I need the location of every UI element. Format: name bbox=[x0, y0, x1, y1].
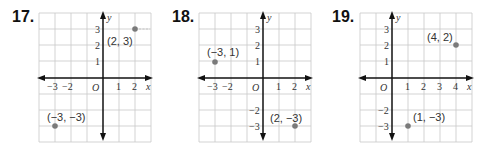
x-axis-label: x bbox=[466, 81, 472, 92]
x-axis-label: x bbox=[305, 81, 311, 92]
y-axis-label: y bbox=[395, 12, 401, 23]
svg-text:3: 3 bbox=[95, 24, 100, 35]
y-axis-label: y bbox=[106, 12, 112, 23]
point-label: (1, −3) bbox=[413, 111, 445, 123]
svg-text:−3: −3 bbox=[378, 121, 389, 132]
svg-text:2: 2 bbox=[95, 40, 100, 51]
origin-label: O bbox=[252, 82, 259, 93]
svg-text:1: 1 bbox=[116, 81, 121, 92]
svg-text:2: 2 bbox=[255, 40, 260, 51]
point-marker bbox=[132, 26, 138, 32]
svg-text:−3: −3 bbox=[249, 121, 260, 132]
origin-label: O bbox=[92, 82, 99, 93]
svg-text:−3: −3 bbox=[207, 81, 218, 92]
svg-text:2: 2 bbox=[421, 81, 426, 92]
x-axis-label: x bbox=[145, 81, 151, 92]
point-label: (2, 3) bbox=[107, 35, 133, 47]
svg-text:1: 1 bbox=[405, 81, 410, 92]
coordinate-plane: y x O −3−2 12 321 −2−3 (−3, 1) (2, −3) bbox=[160, 0, 320, 152]
svg-text:1: 1 bbox=[95, 56, 100, 67]
svg-text:−2: −2 bbox=[62, 81, 73, 92]
problem-18: 18. y x O −3−2 12 321 −2−3 (−3, 1) (2, −… bbox=[160, 0, 320, 152]
svg-text:4: 4 bbox=[453, 81, 458, 92]
y-axis-label: y bbox=[266, 12, 272, 23]
point-marker bbox=[292, 123, 298, 129]
svg-text:1: 1 bbox=[276, 81, 281, 92]
origin-label: O bbox=[380, 82, 387, 93]
svg-text:−3: −3 bbox=[47, 81, 58, 92]
point-marker bbox=[212, 59, 218, 65]
point-label: (−3, 1) bbox=[207, 46, 239, 58]
svg-text:−2: −2 bbox=[249, 105, 260, 116]
problem-19: 19. y x O 1234 321 −2−3 (4, 2) (1, −3) bbox=[320, 0, 483, 152]
svg-text:2: 2 bbox=[292, 81, 297, 92]
point-label: (2, −3) bbox=[270, 112, 302, 124]
svg-text:−2: −2 bbox=[378, 105, 389, 116]
svg-text:2: 2 bbox=[384, 40, 389, 51]
svg-text:3: 3 bbox=[437, 81, 442, 92]
svg-text:2: 2 bbox=[132, 81, 137, 92]
svg-text:−2: −2 bbox=[222, 81, 233, 92]
coordinate-plane: y x O −3−2 12 321 (2, 3) (−3, −3) bbox=[0, 0, 160, 152]
point-marker bbox=[453, 42, 459, 48]
problem-17: 17. y x O −3−2 12 321 (2, 3) (−3, −3) bbox=[0, 0, 160, 152]
coordinate-plane: y x O 1234 321 −2−3 (4, 2) (1, −3) bbox=[320, 0, 483, 152]
point-marker bbox=[405, 123, 411, 129]
point-marker bbox=[52, 123, 58, 129]
svg-text:1: 1 bbox=[384, 56, 389, 67]
svg-text:1: 1 bbox=[255, 56, 260, 67]
point-label: (−3, −3) bbox=[47, 111, 86, 123]
point-label: (4, 2) bbox=[427, 31, 453, 43]
svg-text:3: 3 bbox=[384, 24, 389, 35]
svg-text:3: 3 bbox=[255, 24, 260, 35]
